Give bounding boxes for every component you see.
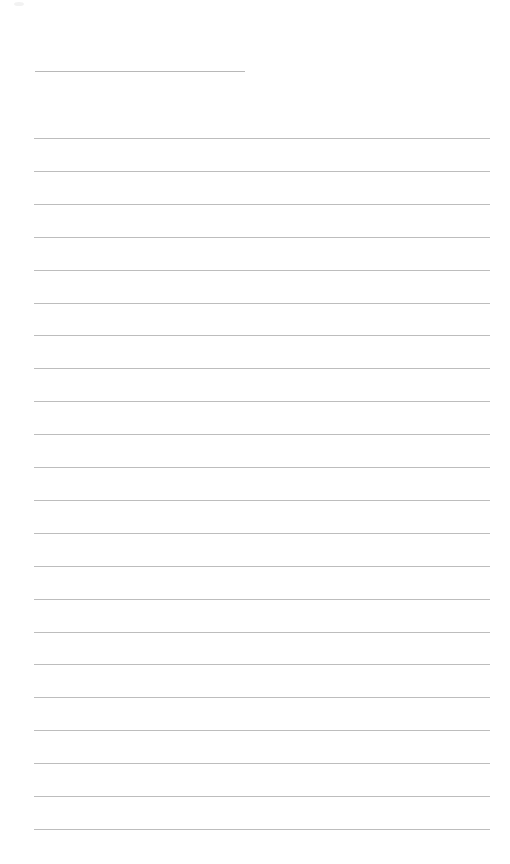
lined-paper-page: [0, 0, 510, 864]
ruled-line: [34, 763, 490, 764]
ruled-line: [34, 171, 490, 172]
ruled-line: [34, 599, 490, 600]
ruled-line: [34, 664, 490, 665]
ruled-line: [34, 237, 490, 238]
ruled-line: [34, 434, 490, 435]
ruled-line: [34, 533, 490, 534]
ruled-line: [34, 204, 490, 205]
ruled-line: [34, 368, 490, 369]
ruled-line: [34, 730, 490, 731]
header-name-line: [35, 71, 245, 72]
ruled-line: [34, 303, 490, 304]
ruled-line: [34, 138, 490, 139]
ruled-line: [34, 829, 490, 830]
ruled-line: [34, 335, 490, 336]
ruled-line: [34, 401, 490, 402]
ruled-line: [34, 796, 490, 797]
ruled-line: [34, 270, 490, 271]
corner-mark: [14, 2, 24, 6]
ruled-line: [34, 632, 490, 633]
ruled-line: [34, 500, 490, 501]
ruled-line: [34, 467, 490, 468]
ruled-line: [34, 566, 490, 567]
ruled-line: [34, 697, 490, 698]
